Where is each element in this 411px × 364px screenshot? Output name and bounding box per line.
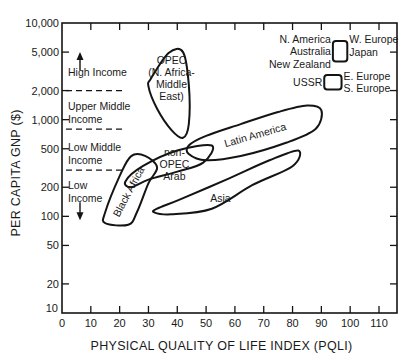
- income-band-label: Low Middle: [68, 141, 121, 153]
- region-label: non-: [164, 146, 186, 158]
- region-label: East): [159, 90, 184, 102]
- income-band-label: Upper Middle: [68, 100, 131, 112]
- y-tick-label: 500: [41, 143, 59, 155]
- region-label-group: Asia: [210, 192, 231, 204]
- region-label: (N. Africa-: [148, 66, 195, 78]
- chart: 0102030405060708090100110 10205010020050…: [0, 0, 411, 364]
- region-label: S. Europe: [344, 82, 391, 94]
- y-axis-title: PER CAPITA GNP ($): [9, 109, 23, 236]
- y-tick-label: 2,000: [31, 85, 59, 97]
- region-label: OPEC: [157, 54, 187, 66]
- x-tick-label: 80: [286, 317, 298, 329]
- x-tick-label: 10: [85, 317, 97, 329]
- x-tick-label: 40: [171, 317, 183, 329]
- income-band-label: Income: [68, 113, 103, 125]
- y-tick-label: 100: [41, 210, 59, 222]
- region-label: W. Europe: [349, 33, 398, 45]
- arrow-up-icon: [77, 52, 84, 60]
- region-label: USSR: [293, 76, 323, 88]
- x-tick-label: 90: [315, 317, 327, 329]
- arrow-down-icon: [77, 212, 84, 220]
- region-label: E. Europe: [344, 70, 391, 82]
- region-label: New Zealand: [269, 58, 331, 70]
- regions: OPEC(N. Africa-MiddleEast)Latin AmericaB…: [103, 33, 399, 226]
- region-label: Arab: [163, 170, 185, 182]
- region-outline-n-america-australia-new-zealand-w-europe-japan: [333, 41, 347, 61]
- x-axis-title: PHYSICAL QUALITY OF LIFE INDEX (PQLI): [91, 339, 353, 353]
- x-tick-label: 20: [114, 317, 126, 329]
- x-tick-label: 60: [229, 317, 241, 329]
- x-tick-label: 30: [142, 317, 154, 329]
- region-label-group: Black Africa: [110, 164, 146, 218]
- x-tick-label: 100: [341, 317, 359, 329]
- region-label: Australia: [290, 45, 331, 57]
- region-label: N. America: [280, 33, 332, 45]
- x-tick-label: 0: [59, 317, 65, 329]
- region-label: Middle: [156, 78, 187, 90]
- x-tick-label: 70: [258, 317, 270, 329]
- x-tick-label: 50: [200, 317, 212, 329]
- region-label: Asia: [210, 192, 231, 204]
- y-tick-label: 20: [47, 278, 59, 290]
- x-tick-label: 110: [370, 317, 388, 329]
- y-tick-label: 1,000: [31, 114, 59, 126]
- income-band-label: High Income: [68, 66, 127, 78]
- income-band-label: Income: [68, 154, 103, 166]
- income-band-label: Income: [68, 192, 103, 204]
- y-tick-label: 5,000: [31, 46, 59, 58]
- y-tick-label: 10: [46, 302, 58, 314]
- y-tick-label: 200: [41, 181, 59, 193]
- y-tick-label: 50: [47, 239, 59, 251]
- region-outline-ussr-e-europe-s-europe: [324, 75, 341, 90]
- region-label: Japan: [349, 46, 378, 58]
- region-label-group: non-OPECArab: [160, 146, 190, 182]
- income-band-label: Low: [68, 179, 88, 191]
- region-label: OPEC: [160, 158, 190, 170]
- region-label: Black Africa: [110, 164, 146, 218]
- y-tick-label: 10,000: [25, 17, 59, 29]
